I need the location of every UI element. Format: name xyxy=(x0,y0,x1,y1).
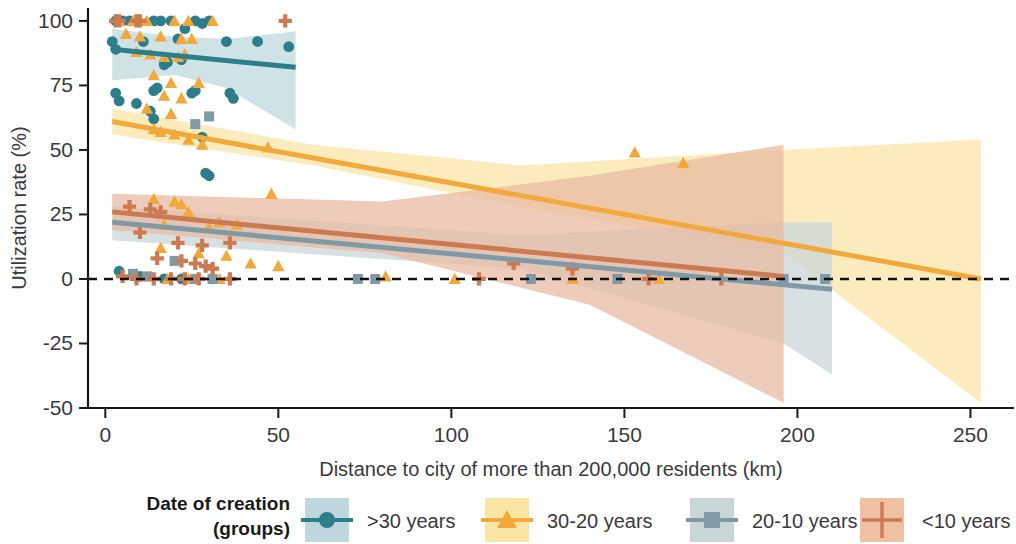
data-point xyxy=(148,114,159,125)
data-point xyxy=(165,77,177,88)
data-point xyxy=(220,250,232,261)
confidence-bands-layer xyxy=(112,29,981,403)
data-point xyxy=(252,36,263,47)
legend-label: 20-10 years xyxy=(752,510,858,532)
legend-label: 30-20 years xyxy=(547,510,653,532)
legend-item-2[interactable]: 20-10 years xyxy=(686,498,858,542)
x-tick-label: 0 xyxy=(99,423,111,446)
square-icon xyxy=(704,512,720,528)
data-point xyxy=(152,83,163,94)
legend-label: >30 years xyxy=(367,510,455,532)
data-point xyxy=(221,36,232,47)
data-point xyxy=(204,111,214,121)
legend-title-line1: Date of creation xyxy=(146,493,290,514)
data-point xyxy=(228,93,239,104)
y-tick-label: 25 xyxy=(50,202,73,225)
y-tick-label: 50 xyxy=(50,138,73,161)
x-tick-label: 200 xyxy=(780,423,815,446)
circle-icon xyxy=(319,512,335,528)
y-tick-label: 75 xyxy=(50,73,73,96)
data-point xyxy=(114,96,125,107)
legend-label: <10 years xyxy=(922,510,1010,532)
legend-title-line2: (groups) xyxy=(213,518,290,539)
data-point xyxy=(279,14,292,27)
data-point xyxy=(244,257,256,268)
legend-item-3[interactable]: <10 years xyxy=(860,498,1010,542)
data-point xyxy=(283,41,294,52)
data-point xyxy=(272,260,284,271)
data-point xyxy=(204,170,215,181)
data-point xyxy=(629,146,641,157)
data-point xyxy=(131,98,142,109)
y-axis-title: Utilization rate (%) xyxy=(8,126,30,289)
x-tick-label: 250 xyxy=(953,423,988,446)
data-point xyxy=(155,16,166,27)
chart-container: -50-250255075100050100150200250Distance … xyxy=(0,0,1016,544)
y-tick-label: -25 xyxy=(43,331,73,354)
data-point xyxy=(175,92,187,103)
data-point xyxy=(190,119,200,129)
y-tick-label: 100 xyxy=(38,9,73,32)
chart-legend: Date of creation(groups)>30 years30-20 y… xyxy=(146,493,1010,542)
data-point xyxy=(151,252,164,265)
y-tick-label: 0 xyxy=(61,267,73,290)
x-axis-title: Distance to city of more than 200,000 re… xyxy=(319,458,783,480)
x-tick-label: 100 xyxy=(434,423,469,446)
data-point xyxy=(265,188,277,199)
x-tick-label: 50 xyxy=(267,423,290,446)
data-point xyxy=(165,108,177,119)
legend-item-0[interactable]: >30 years xyxy=(301,498,455,542)
x-tick-label: 150 xyxy=(607,423,642,446)
y-tick-label: -50 xyxy=(43,396,73,419)
legend-item-1[interactable]: 30-20 years xyxy=(481,498,653,542)
utilization-rate-scatter-chart: -50-250255075100050100150200250Distance … xyxy=(0,0,1016,544)
